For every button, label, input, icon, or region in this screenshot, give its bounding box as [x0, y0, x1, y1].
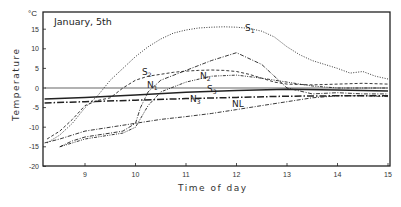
- series-line-s1: [47, 27, 388, 143]
- series-line-s2: [47, 70, 388, 139]
- y-unit-label: °C: [28, 9, 37, 18]
- x-ticks: 9101112131415: [83, 163, 392, 178]
- label-n1: N1: [147, 80, 158, 91]
- x-tick-label: 15: [384, 171, 392, 178]
- x-tick-label: 13: [283, 171, 291, 178]
- x-axis-label: Time of day: [177, 183, 247, 193]
- series-line-n2: [60, 75, 388, 147]
- y-tick-label: 10: [31, 45, 39, 52]
- y-tick-label: 5: [35, 65, 39, 72]
- label-n2: N2: [200, 71, 211, 82]
- y-tick-label: 0: [35, 85, 39, 92]
- label-nl: NL: [232, 99, 244, 109]
- series-group: [45, 27, 388, 147]
- label-s3: S3: [207, 84, 217, 95]
- y-tick-label: -5: [33, 104, 39, 111]
- y-tick-label: 15: [31, 26, 39, 33]
- x-tick-label: 12: [233, 171, 241, 178]
- x-tick-label: 10: [132, 171, 140, 178]
- y-tick-label: -15: [29, 143, 39, 150]
- label-n3: N3: [190, 94, 201, 105]
- y-tick-label: -10: [29, 124, 39, 131]
- series-line-n1: [60, 53, 388, 147]
- series-line-nl: [45, 96, 388, 143]
- x-tick-label: 11: [182, 171, 189, 178]
- temperature-chart: January, 5th °C Temperature Time of day …: [0, 0, 401, 207]
- label-s1: S1: [245, 23, 255, 34]
- y-tick-label: -20: [29, 163, 39, 170]
- y-axis-label: Temperature: [11, 47, 21, 122]
- label-s2: S2: [142, 67, 152, 78]
- chart-title: January, 5th: [53, 16, 112, 27]
- x-tick-label: 9: [83, 171, 87, 178]
- x-tick-label: 14: [334, 171, 342, 178]
